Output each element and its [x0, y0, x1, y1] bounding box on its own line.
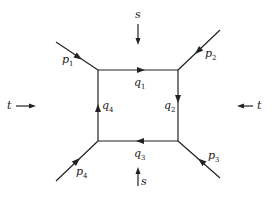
- arrow-down-icon: [136, 38, 141, 45]
- arrow-up-icon: [136, 167, 141, 174]
- label-p3: p3: [208, 149, 220, 164]
- arrow-left-icon: [136, 138, 144, 144]
- label-p2: p2: [205, 47, 217, 62]
- label-s-bottom: s: [141, 175, 147, 188]
- arrow-right-icon: [29, 104, 36, 109]
- label-p4: p4: [76, 165, 88, 180]
- label-q1: q1: [134, 76, 146, 91]
- label-q3: q3: [134, 147, 146, 162]
- label-q4: q4: [102, 99, 114, 114]
- box-diagram: q1 q2 q3 q4 p1 p2 p3 p4 s s t t: [0, 0, 277, 199]
- arrow-up-icon: [95, 104, 101, 112]
- label-t-right: t: [257, 99, 262, 112]
- arrow-left-icon: [237, 104, 244, 109]
- arrow-inward-icon: [74, 53, 83, 60]
- label-p1: p1: [62, 53, 74, 68]
- arrow-down-icon: [175, 95, 181, 103]
- label-q2: q2: [164, 99, 176, 114]
- label-t-left: t: [7, 99, 12, 112]
- label-s-top: s: [135, 8, 141, 21]
- arrow-right-icon: [137, 67, 145, 73]
